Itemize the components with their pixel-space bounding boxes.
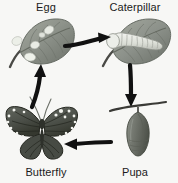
arrow-butterfly-to-egg — [18, 62, 54, 110]
arrow-head-right — [125, 94, 137, 107]
egg-cluster-5 — [39, 33, 45, 38]
stage-label-egg: Egg — [0, 1, 92, 13]
butterfly-thorax — [39, 119, 44, 129]
butterfly-life-cycle-diagram: Egg Caterpillar Butterfly Pupa — [0, 0, 178, 183]
arrow-head-top — [98, 33, 111, 44]
stage-label-butterfly: Butterfly — [0, 166, 92, 178]
arrow-pupa-to-butterfly — [62, 132, 114, 156]
arrow-head-bottom — [64, 139, 77, 151]
stage-label-pupa: Pupa — [92, 166, 178, 178]
arrow-shaft-bottom — [75, 142, 111, 144]
arrow-shaft-top — [65, 38, 102, 46]
arrow-head-left — [34, 64, 46, 77]
arrow-caterpillar-to-pupa — [114, 62, 150, 110]
arrow-shaft-left — [32, 76, 40, 107]
arrow-shaft-right — [130, 65, 131, 95]
arrow-egg-to-caterpillar — [62, 30, 114, 54]
stage-label-caterpillar: Caterpillar — [92, 1, 178, 13]
